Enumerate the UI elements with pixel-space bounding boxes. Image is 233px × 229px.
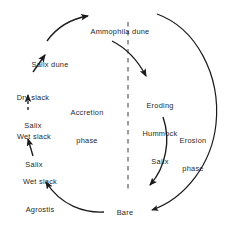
phase-label-accretion: Accretion phase (61, 90, 113, 164)
phase-label-line: Erosion (171, 136, 215, 145)
node-label-line: Eroding (134, 101, 186, 110)
phase-label-line: phase (61, 136, 113, 145)
node-label-line: Ammophila dune (84, 27, 156, 36)
node-wet-slack-agrostis: Wet slack Agrostis (5, 159, 75, 229)
succession-cycle-diagram: Ammophila dune Salix dune Dry slack Sali… (0, 0, 233, 229)
node-label-line: Wet slack (5, 177, 75, 186)
phase-label-line: phase (171, 164, 215, 173)
node-label-line: Bare (102, 208, 148, 217)
edge-salixdune-to-ammophila (47, 16, 88, 41)
node-ammophila-dune: Ammophila dune (84, 9, 156, 55)
node-label-line: Salix dune (19, 60, 81, 69)
node-label-line: Agrostis (5, 205, 75, 214)
phase-label-erosion: Erosion phase (171, 118, 215, 192)
node-label-line: Dry slack (2, 93, 64, 102)
phase-label-line: Accretion (61, 108, 113, 117)
node-bare-damp-sand: Bare damp sand (102, 190, 148, 229)
node-label-line: Wet slack (3, 132, 65, 141)
